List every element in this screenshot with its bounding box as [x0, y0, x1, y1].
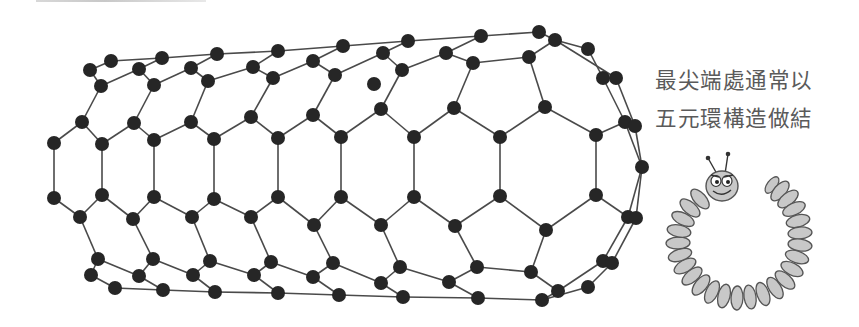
worm-pupil-right: [726, 180, 730, 184]
worm-head: [706, 152, 738, 201]
caption-line-2: 五元環構造做結: [655, 100, 813, 138]
antenna-right-tip: [726, 152, 731, 157]
worm-face: [706, 171, 738, 201]
worm-segment: [788, 226, 813, 240]
worm-body: [666, 174, 813, 310]
caption-line-1: 最尖端處通常以: [655, 62, 813, 100]
worm-pupil-left: [715, 180, 719, 184]
caption: 最尖端處通常以 五元環構造做結: [655, 62, 813, 138]
worm-cartoon-icon: [0, 0, 859, 327]
worm-segment: [731, 286, 744, 310]
antenna-left-tip: [706, 156, 711, 161]
nanotube-diagram: 最尖端處通常以 五元環構造做結: [0, 0, 859, 327]
worm-segment: [666, 237, 690, 250]
